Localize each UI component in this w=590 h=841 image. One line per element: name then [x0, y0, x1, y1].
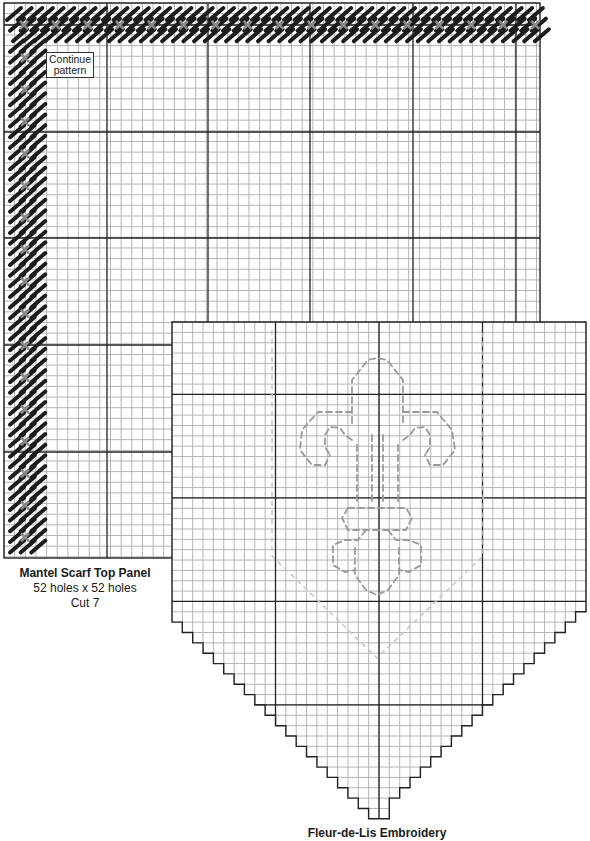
bottom-panel-caption: Fleur-de-Lis Embroidery	[272, 826, 482, 841]
top-panel-size: 52 holes x 52 holes	[0, 581, 170, 596]
top-panel-caption: Mantel Scarf Top Panel 52 holes x 52 hol…	[0, 566, 170, 611]
top-panel-title: Mantel Scarf Top Panel	[0, 566, 170, 581]
bottom-panel-title: Fleur-de-Lis Embroidery	[272, 826, 482, 841]
continue-pattern-note: Continue pattern	[46, 52, 94, 78]
bottom-panel-grid	[172, 322, 586, 819]
top-panel-cut: Cut 7	[0, 596, 170, 611]
pennant-grid	[172, 322, 586, 819]
